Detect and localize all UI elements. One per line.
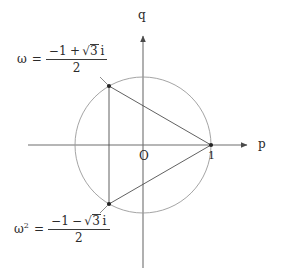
p-axis-label: p [258,138,266,150]
omega-squared-fraction: −1−√3i 2 [48,214,110,244]
omega-radicand: 3 [90,44,99,58]
omega-numerator-sign: −1 [49,44,67,58]
omega-squared-denominator: 2 [75,230,83,244]
omega-fraction: −1+√3i 2 [46,44,108,74]
omega-squared-equals-sign: = [34,223,44,235]
root-point-one [209,143,213,147]
omega-squared-symbol: ω2 [14,223,29,235]
omega-numerator-operator: + [67,44,82,58]
omega-squared-formula: ω2 = −1−√3i 2 [14,214,110,244]
omega-glyph: ω [17,53,27,65]
omega-squared-sqrt-symbol: √ [84,215,92,227]
omega-sqrt-symbol: √ [82,45,90,57]
omega-equals-sign: = [32,53,42,65]
argand-diagram-figure: q p O 1 ω = −1+√3i 2 ω2 = −1−√3i 2 [0,0,283,274]
omega-squared-imaginary-unit: i [101,214,107,228]
omega-squared-radicand: 3 [92,214,101,228]
omega-squared-glyph: ω [14,223,24,235]
omega-imaginary-unit: i [99,44,105,58]
omega-leader-line [100,77,108,85]
omega-squared-numerator: −1−√3i [48,214,110,229]
omega-numerator: −1+√3i [46,44,108,59]
omega-formula: ω = −1+√3i 2 [17,44,107,74]
origin-label: O [139,150,149,162]
omega-denominator: 2 [73,60,81,74]
tick-label-one: 1 [208,150,215,161]
omega-symbol: ω [17,53,27,65]
omega-squared-numerator-operator: − [69,214,84,228]
q-axis-label: q [138,9,146,21]
omega-squared-exponent: 2 [24,222,29,230]
omega-squared-numerator-sign: −1 [51,214,69,228]
omega-squared-leader-line [100,205,108,213]
